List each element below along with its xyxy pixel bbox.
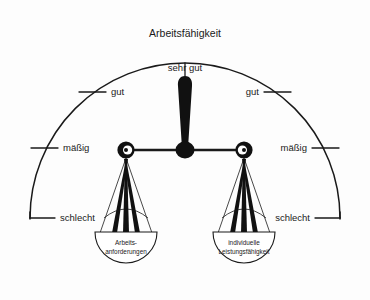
right-pan-label-line1: individuelle: [228, 239, 260, 246]
gauge-label-left-maessig: mäßig: [63, 142, 89, 153]
left-pan-label-line2: anforderungen: [105, 248, 147, 256]
balance-scale-illustration: Arbeitsfähigkeit sehr gut gut mäßig schl…: [0, 0, 370, 300]
needle-value-label: sehr gut: [168, 62, 203, 73]
right-pan-label-line2: Leistungsfähigkeit: [218, 248, 269, 256]
gauge-label-left-schlecht: schlecht: [60, 212, 95, 223]
right-hanger-pin: [242, 148, 246, 152]
left-pan-assembly: Arbeits- anforderungen: [95, 158, 157, 263]
gauge-label-right-schlecht: schlecht: [275, 212, 310, 223]
right-pan-assembly: individuelle Leistungsfähigkeit: [213, 158, 275, 263]
gauge-label-right-gut: gut: [246, 86, 260, 97]
fulcrum-hub: [176, 142, 195, 159]
work-ability-balance-diagram: Arbeitsfähigkeit sehr gut gut mäßig schl…: [0, 0, 370, 300]
gauge-label-right-maessig: mäßig: [281, 142, 307, 153]
left-hanger-pin: [124, 148, 128, 152]
gauge-label-left-gut: gut: [111, 86, 125, 97]
pointer-needle: [178, 76, 192, 145]
diagram-title: Arbeitsfähigkeit: [149, 27, 221, 39]
left-pan-label-line1: Arbeits-: [115, 239, 137, 246]
